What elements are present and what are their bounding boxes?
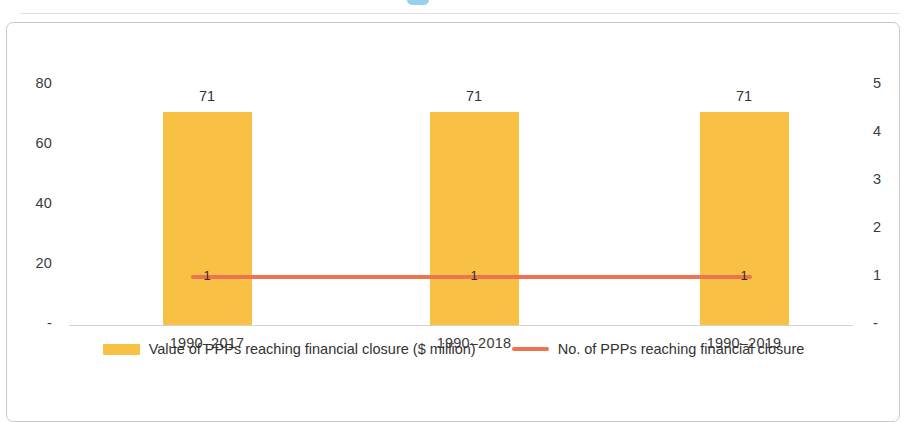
bar-value-label: 71 — [704, 88, 784, 104]
left-axis-tick: 80 — [35, 75, 52, 91]
left-axis-tick: 20 — [35, 255, 52, 271]
bar — [430, 112, 519, 325]
right-axis-tick: 5 — [873, 75, 881, 91]
axis-baseline — [69, 325, 853, 326]
bar-value-label: 71 — [167, 88, 247, 104]
bar — [700, 112, 789, 325]
bar — [163, 112, 252, 325]
right-axis-tick: 3 — [873, 171, 881, 187]
chart-panel: 80604020-54321-7171711111990–20171990–20… — [6, 22, 900, 422]
legend-label: No. of PPPs reaching financial closure — [558, 341, 805, 357]
left-axis-tick: 60 — [35, 135, 52, 151]
right-axis-tick: 2 — [873, 219, 881, 235]
bar-value-label: 71 — [434, 88, 514, 104]
chart-legend: Value of PPPs reaching financial closure… — [0, 341, 907, 357]
right-axis-tick: - — [873, 315, 878, 331]
legend-item[interactable]: Value of PPPs reaching financial closure… — [103, 341, 476, 357]
line-value-label: 1 — [192, 268, 222, 283]
top-blue-tab-sliver — [407, 0, 429, 5]
left-axis-tick: - — [47, 315, 52, 331]
right-axis-tick: 4 — [873, 123, 881, 139]
line-value-label: 1 — [729, 268, 759, 283]
line-value-label: 1 — [459, 268, 489, 283]
legend-item[interactable]: No. of PPPs reaching financial closure — [512, 341, 805, 357]
legend-bar-swatch-icon — [103, 344, 140, 355]
legend-line-swatch-icon — [512, 347, 549, 351]
right-axis-tick: 1 — [873, 267, 881, 283]
top-divider-line — [20, 13, 900, 14]
left-axis-tick: 40 — [35, 195, 52, 211]
legend-label: Value of PPPs reaching financial closure… — [149, 341, 476, 357]
